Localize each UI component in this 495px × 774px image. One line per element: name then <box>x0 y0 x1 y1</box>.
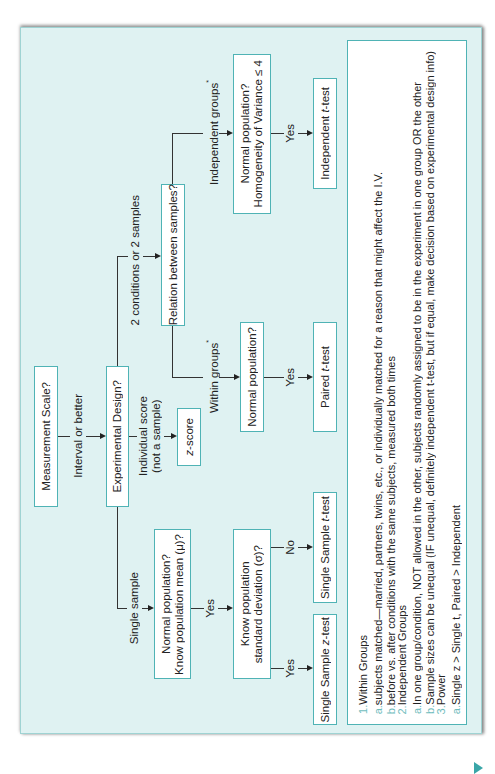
edge-line <box>298 547 307 548</box>
edge-line <box>172 133 173 184</box>
single-sample-t-test-node: Single Sample t-test <box>313 492 337 603</box>
z-score-node: z-score <box>177 408 201 466</box>
normal-population-homogeneity-node: Normal population?Homogeneity of Varianc… <box>233 54 271 214</box>
measurement-scale-label: Measurement Scale? <box>40 382 53 491</box>
edge-line <box>172 326 173 377</box>
edge-label-single-sample: Single sample <box>126 570 142 646</box>
edge-label-no: No <box>283 535 297 559</box>
edge-line <box>172 133 203 134</box>
experimental-design-node: Experimental Design? <box>106 366 129 507</box>
edge-line <box>86 436 100 437</box>
normal-population-single-node: Normal population?Know population mean (… <box>154 529 191 679</box>
edge-label-yes: Yes <box>283 118 297 148</box>
note-item: b.Sample sizes can be unequal (IF unequa… <box>422 51 437 714</box>
edge-label-interval: Interval or better <box>70 390 86 482</box>
edge-line <box>58 436 70 437</box>
edge-label-yes: Yes <box>203 593 217 623</box>
paired-t-test-node: Paired t-test <box>313 322 337 432</box>
edge-line <box>298 377 307 378</box>
know-sd-node: Know populationstandard deviation (σ)? <box>233 529 271 679</box>
single-sample-z-test-node: Single Sample z-test <box>313 614 337 725</box>
edge-line <box>218 608 227 609</box>
edge-label-individual-score: Individual score(not a sample) <box>136 395 164 477</box>
edge-line <box>219 377 234 378</box>
independent-t-test-node: Independent t-test <box>313 78 337 189</box>
edge-line <box>298 133 307 134</box>
measurement-scale-node: Measurement Scale? <box>34 366 58 507</box>
edge-label-independent-groups: Independent groups* <box>203 80 219 186</box>
page-corner-triangle-icon <box>474 762 483 774</box>
edge-label-within-groups: Within groups* <box>203 340 219 414</box>
notes-box: 1.Within Groups a.subjects matched—marri… <box>347 40 467 725</box>
edge-line <box>172 377 203 378</box>
relation-between-samples-node: Relation between samples? <box>161 184 185 326</box>
edge-line <box>298 668 307 669</box>
note-item: a.Single z > Single t, Paired > Independ… <box>448 505 463 714</box>
edge-label-two-conditions: 2 conditions or 2 samples <box>127 190 143 330</box>
edge-line <box>117 507 118 608</box>
edge-label-yes: Yes <box>283 653 297 683</box>
edge-line <box>143 256 155 257</box>
edge-line <box>117 256 118 366</box>
edge-line <box>219 133 227 134</box>
edge-label-yes: Yes <box>283 362 297 392</box>
edge-line <box>264 377 284 378</box>
normal-population-within-node: Normal population? <box>240 322 264 432</box>
